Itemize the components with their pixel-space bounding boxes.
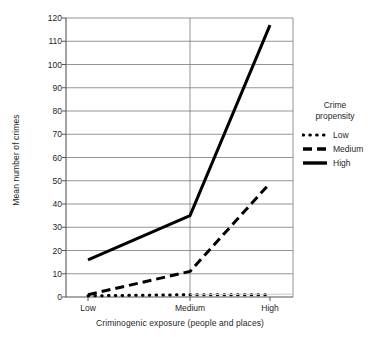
legend-title-line2: propensity [300,111,370,122]
legend-swatch-dashed-icon [302,144,328,154]
plot-area [0,0,372,337]
legend-item-high: High [302,157,350,168]
line-chart: 120 110 100 90 80 70 60 50 40 30 20 10 0 [0,0,372,337]
grid-lines-horizontal [66,18,293,274]
axis-lines [62,18,293,301]
legend-title-line1: Crime [300,100,370,111]
x-axis-title: Criminogenic exposure (people and places… [66,318,294,328]
x-tick-label-medium: Medium [160,303,220,313]
x-tick-label-high: High [240,303,300,313]
legend-item-low: Low [302,129,349,140]
y-axis-title: Mean number of crimes [11,100,21,220]
series-low-faint-tail [190,294,293,295]
series-high-line [88,25,270,260]
legend-label-medium: Medium [333,144,363,154]
legend-swatch-solid-icon [302,158,328,168]
legend-label-low: Low [333,130,349,140]
legend-swatch-dotted-icon [302,130,328,140]
legend-item-medium: Medium [302,143,363,154]
legend-label-high: High [333,158,350,168]
x-tick-label-low: Low [58,303,118,313]
series-medium-line [88,183,270,295]
